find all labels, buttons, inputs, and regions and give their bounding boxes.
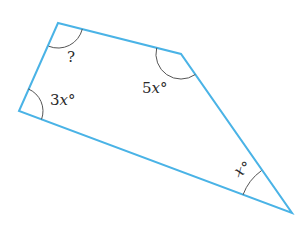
- quadrilateral-diagram: ? 3x° 5x° x°: [0, 0, 308, 230]
- coefficient-text: 5: [142, 79, 152, 97]
- degree-symbol: °: [160, 79, 168, 97]
- degree-symbol: °: [68, 91, 76, 109]
- variable-text: x: [60, 91, 68, 109]
- angle-label-5x: 5x°: [142, 81, 168, 96]
- angle-label-unknown: ?: [67, 50, 75, 65]
- unknown-angle-text: ?: [67, 48, 75, 66]
- variable-text: x: [152, 79, 160, 97]
- coefficient-text: 3: [50, 91, 60, 109]
- angle-label-3x: 3x°: [50, 93, 76, 108]
- quadrilateral-outline: [19, 23, 292, 213]
- diagram-shapes: [0, 0, 308, 230]
